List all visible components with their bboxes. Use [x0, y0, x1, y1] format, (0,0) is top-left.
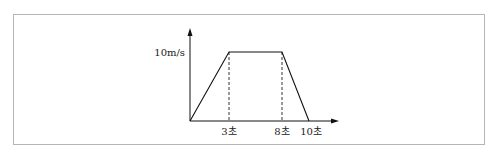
y-axis-arrow-icon	[188, 28, 193, 36]
velocity-time-chart: 10m/s 3초 8초 10초	[0, 0, 495, 156]
y-tick-10ms: 10m/s	[154, 47, 185, 58]
x-tick-10s: 10초	[300, 126, 322, 137]
x-tick-8s: 8초	[274, 126, 289, 137]
velocity-line	[190, 52, 309, 121]
x-axis-arrow-icon	[331, 119, 339, 124]
x-tick-3s: 3초	[221, 126, 236, 137]
